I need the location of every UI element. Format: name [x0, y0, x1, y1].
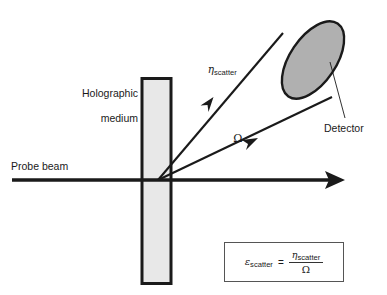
formula-numerator: ηscatter [289, 249, 324, 264]
detector-leader-line [330, 62, 345, 118]
scatter-ray-upper-arrowhead [201, 97, 214, 112]
formula-denominator: Ω [289, 263, 324, 275]
formula-fraction: ηscatter Ω [289, 249, 324, 276]
formula-lhs: εscatter [245, 256, 273, 269]
epsilon-subscript: scatter [250, 259, 273, 268]
formula-numerator-subscript: scatter [297, 252, 320, 261]
formula-denominator-symbol: Ω [302, 264, 310, 275]
eta-scatter-label: ηscatter [196, 50, 237, 91]
formula-content: εscatter = ηscatter Ω [225, 243, 343, 281]
holographic-medium-label: Holographic medium [62, 74, 138, 137]
detector-ellipse [269, 11, 356, 110]
holography-scattering-diagram: Holographic medium Probe beam Detector η… [0, 0, 387, 295]
probe-beam-label: Probe beam [11, 160, 68, 173]
eta-subscript: scatter [214, 67, 237, 76]
omega-symbol: Ω [233, 132, 242, 145]
scatter-ray-lower-arrowhead [242, 138, 258, 150]
scatter-ray-lower [158, 97, 332, 180]
formula-equals-sign: = [278, 257, 284, 268]
holographic-medium-label-line1: Holographic [82, 87, 138, 99]
formula-box: εscatter = ηscatter Ω [224, 242, 344, 282]
detector-label: Detector [324, 122, 364, 135]
holographic-medium-label-line2: medium [101, 112, 138, 124]
omega-label: Ω [221, 119, 242, 158]
